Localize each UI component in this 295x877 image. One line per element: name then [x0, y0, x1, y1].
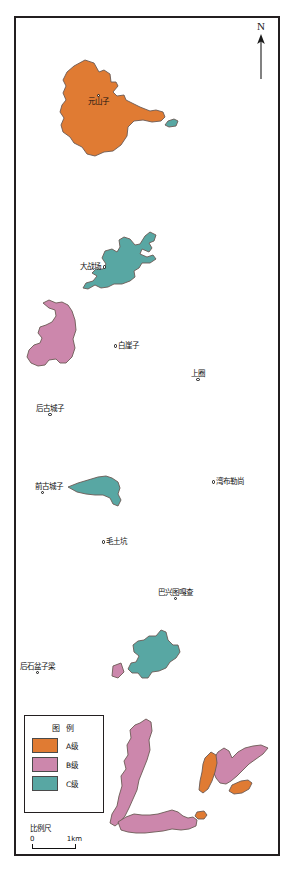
legend-color-swatch	[32, 776, 58, 791]
north-arrow-label: N	[250, 20, 272, 32]
scalebar-min-label: 0	[30, 835, 34, 843]
legend-item-list: A级B级C级	[25, 738, 103, 791]
map-place-marker-icon	[36, 671, 39, 674]
map-figure: N 元山子大战场白崖子上圈后古城子前古城子湾布勒尚毛土坑巴兴图嘎查后石盆子梁 图…	[0, 0, 295, 877]
map-place-label: 湾布勒尚	[212, 477, 244, 486]
scalebar-baseline	[32, 848, 76, 849]
scalebar-numbers: 0 1km	[30, 835, 82, 843]
map-place-name: 大战场	[80, 262, 101, 271]
north-arrow-icon	[250, 33, 272, 80]
scalebar-graphic	[32, 844, 76, 849]
map-place-marker-icon	[102, 540, 105, 543]
legend-color-swatch	[32, 738, 58, 753]
map-place-name: 白崖子	[118, 341, 139, 350]
map-place-label: 后古城子	[36, 404, 64, 416]
legend-item: B级	[32, 757, 103, 772]
map-place-label: 巴兴图嘎查	[158, 588, 193, 600]
map-place-marker-icon	[174, 597, 177, 600]
scalebar-title: 比例尺	[30, 822, 102, 833]
map-place-label: 大战场	[80, 262, 106, 271]
map-place-name: 湾布勒尚	[216, 477, 244, 486]
map-place-name: 前古城子	[35, 482, 63, 491]
map-scalebar: 比例尺 0 1km	[30, 822, 102, 849]
map-place-label: 上圈	[191, 369, 205, 381]
legend-item: A级	[32, 738, 103, 753]
map-place-label: 白崖子	[114, 341, 139, 350]
map-place-marker-icon	[41, 491, 44, 494]
map-place-label: 毛土坑	[102, 537, 127, 546]
map-place-marker-icon	[103, 265, 106, 268]
map-place-name: 元山子	[88, 97, 109, 106]
legend-item-label: B级	[66, 759, 78, 770]
map-legend: 图 例 A级B级C级	[24, 715, 104, 813]
legend-item: C级	[32, 776, 103, 791]
legend-item-label: C级	[66, 778, 78, 789]
legend-item-label: A级	[66, 740, 78, 751]
map-place-marker-icon	[212, 480, 215, 483]
map-place-name: 后石盆子梁	[20, 662, 55, 671]
north-arrow: N	[250, 20, 272, 80]
map-place-marker-icon	[48, 413, 51, 416]
map-place-name: 上圈	[191, 369, 205, 378]
map-place-name: 毛土坑	[106, 537, 127, 546]
scalebar-tick-left	[32, 844, 33, 849]
scalebar-tick-right	[75, 844, 76, 849]
map-place-name: 后古城子	[36, 404, 64, 413]
map-place-marker-icon	[196, 378, 199, 381]
legend-color-swatch	[32, 757, 58, 772]
map-place-name: 巴兴图嘎查	[158, 588, 193, 597]
map-place-label: 前古城子	[35, 482, 63, 494]
map-place-marker-icon	[114, 344, 117, 347]
map-place-label: 元山子	[88, 94, 109, 106]
map-place-label: 后石盆子梁	[20, 662, 55, 674]
scalebar-max-label: 1km	[67, 835, 82, 843]
legend-title: 图 例	[25, 722, 103, 733]
